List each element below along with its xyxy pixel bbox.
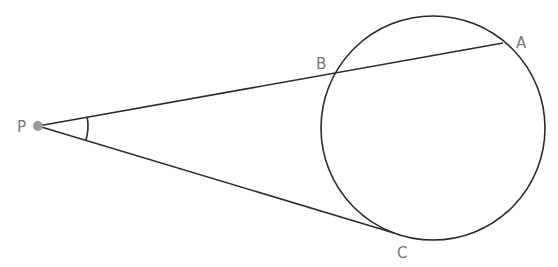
secant-line-PA — [38, 43, 503, 126]
geometry-diagram: P A B C — [0, 0, 558, 267]
circle — [321, 16, 545, 240]
label-C: C — [397, 244, 407, 262]
angle-arc-P — [86, 117, 88, 140]
point-P-dot — [33, 121, 43, 131]
label-P: P — [17, 118, 26, 136]
label-B: B — [316, 55, 326, 73]
tangent-line-PC — [38, 126, 394, 233]
label-A: A — [516, 34, 527, 52]
